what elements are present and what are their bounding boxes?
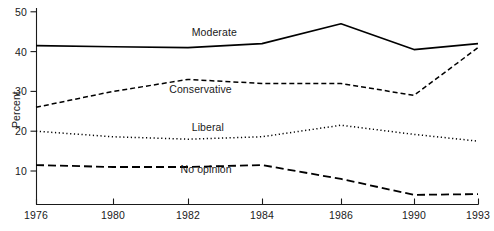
y-axis-ticks — [31, 12, 37, 171]
series-line-no-opinion — [36, 165, 478, 195]
x-axis-ticks — [37, 199, 479, 205]
series-line-conservative — [36, 48, 478, 108]
x-tick-label: 1980 — [83, 210, 143, 221]
y-tick-label: 30 — [0, 86, 27, 97]
x-tick-label: 1976 — [6, 210, 66, 221]
x-tick-label: 1986 — [311, 210, 371, 221]
series-label-no-opinion: No opinion — [181, 164, 232, 175]
y-tick-label: 10 — [0, 166, 27, 177]
data-series-lines — [36, 24, 478, 195]
x-tick-label: 1982 — [158, 210, 218, 221]
series-line-moderate — [36, 24, 478, 50]
x-tick-label: 1993 — [448, 210, 494, 221]
series-label-moderate: Moderate — [192, 27, 237, 38]
y-tick-label: 50 — [0, 7, 27, 18]
x-tick-label: 1984 — [232, 210, 292, 221]
x-tick-label: 1990 — [384, 210, 444, 221]
series-label-liberal: Liberal — [192, 122, 224, 133]
y-tick-label: 20 — [0, 126, 27, 137]
series-line-liberal — [36, 125, 478, 141]
y-tick-label: 40 — [0, 47, 27, 58]
series-label-conservative: Conservative — [169, 84, 231, 95]
chart-axes — [37, 8, 479, 205]
